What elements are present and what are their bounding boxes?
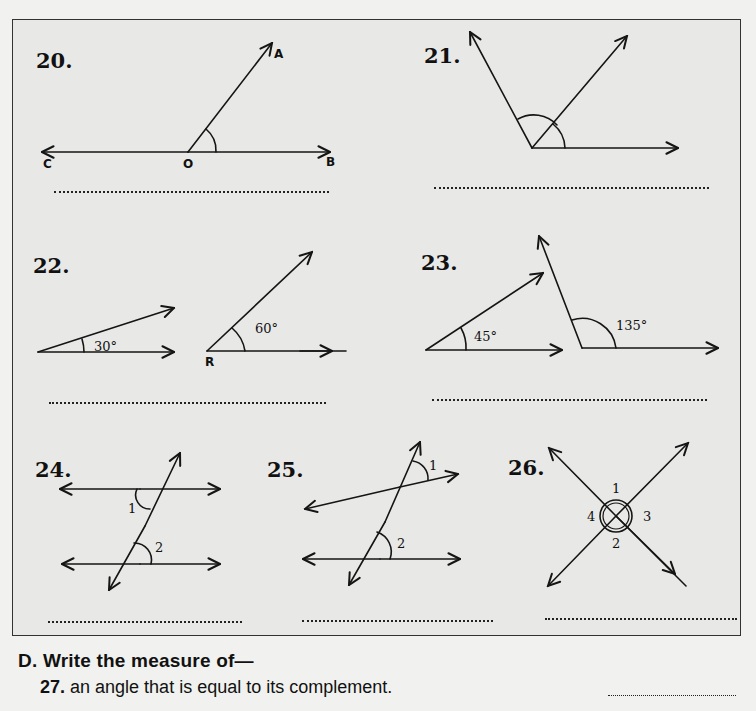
- answer-blank-25[interactable]: [302, 620, 493, 622]
- angle-value-135: 135°: [616, 318, 647, 333]
- figure-21: [470, 32, 678, 148]
- figure-24: 1 2: [60, 453, 220, 590]
- question-number-22: 22.: [33, 253, 70, 278]
- answer-blank-23[interactable]: [432, 399, 707, 401]
- question-number-26: 26.: [508, 455, 545, 480]
- section-d-heading: D. Write the measure of—: [18, 650, 254, 672]
- angle-label-2: 2: [155, 540, 163, 555]
- point-label-o: O: [183, 157, 193, 171]
- point-label-r: R: [205, 355, 214, 369]
- figure-22: 30° 60° R: [38, 252, 346, 369]
- question-number-25: 25.: [267, 457, 304, 482]
- figure-20: A O B C: [42, 43, 335, 171]
- answer-blank-22[interactable]: [49, 402, 326, 404]
- answer-blank-21[interactable]: [434, 187, 709, 189]
- angle-label-1: 1: [612, 481, 620, 496]
- figure-26: 1 2 3 4: [548, 443, 688, 586]
- question-27: 27. an angle that is equal to its comple…: [40, 677, 392, 698]
- angle-value-60: 60°: [255, 321, 278, 336]
- answer-blank-20[interactable]: [54, 191, 329, 193]
- answer-blank-24[interactable]: [48, 621, 242, 623]
- answer-blank-26[interactable]: [545, 618, 737, 620]
- angle-label-2: 2: [397, 536, 405, 551]
- angle-label-1: 1: [128, 501, 136, 516]
- angle-label-4: 4: [587, 509, 595, 524]
- angle-label-1: 1: [429, 458, 437, 473]
- question-number-24: 24.: [35, 457, 72, 482]
- figure-25: 1 2: [303, 442, 460, 585]
- angle-label-2: 2: [612, 536, 620, 551]
- geometry-figures: A O B C 30° 60° R 45° 135°: [0, 0, 756, 711]
- angle-label-3: 3: [643, 509, 651, 524]
- answer-blank-27[interactable]: [608, 695, 736, 696]
- angle-value-30: 30°: [94, 339, 117, 354]
- question-27-text: an angle that is equal to its complement…: [70, 677, 392, 697]
- question-number-27: 27.: [40, 677, 65, 697]
- point-label-b: B: [326, 155, 335, 169]
- figure-23: 45° 135°: [426, 236, 718, 350]
- question-number-20: 20.: [36, 48, 73, 73]
- question-number-21: 21.: [424, 43, 461, 68]
- point-label-c: C: [43, 157, 52, 171]
- point-label-a: A: [274, 47, 284, 61]
- question-number-23: 23.: [421, 250, 458, 275]
- angle-value-45: 45°: [474, 329, 497, 344]
